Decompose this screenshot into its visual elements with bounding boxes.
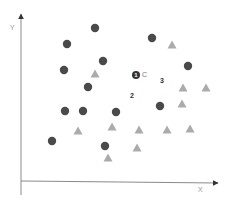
triangle-point — [108, 123, 117, 131]
triangle-point — [104, 154, 113, 162]
circle-point — [60, 66, 68, 74]
circle-point — [112, 108, 120, 116]
triangle-point — [91, 70, 100, 78]
circle-point — [84, 83, 92, 91]
point-label-2: 2 — [130, 92, 134, 99]
triangle-point — [178, 100, 187, 108]
circle-point — [99, 57, 107, 65]
circle-point — [156, 102, 164, 110]
y-axis-label: Y — [10, 24, 15, 31]
triangle-point — [179, 84, 188, 92]
x-axis — [21, 181, 218, 183]
x-axis-label: X — [198, 186, 203, 193]
triangle-point — [163, 126, 172, 134]
triangle-point — [202, 84, 211, 92]
circle-point — [91, 24, 99, 32]
triangle-point — [168, 41, 177, 49]
circle-point — [148, 34, 156, 42]
circle-point — [101, 142, 109, 150]
triangle-point — [74, 127, 83, 135]
circle-point — [63, 40, 71, 48]
point-label-3: 3 — [160, 77, 164, 84]
circle-point — [184, 62, 192, 70]
triangle-point — [135, 126, 144, 134]
triangle-point — [133, 144, 142, 152]
scatter-diagram — [0, 0, 231, 205]
circle-point — [48, 137, 56, 145]
circle-point — [79, 107, 87, 115]
circle-point — [61, 107, 69, 115]
centroid-c-label: C — [142, 71, 147, 78]
triangle-point — [186, 125, 195, 133]
centroid-1-marker: 1 — [132, 71, 140, 79]
